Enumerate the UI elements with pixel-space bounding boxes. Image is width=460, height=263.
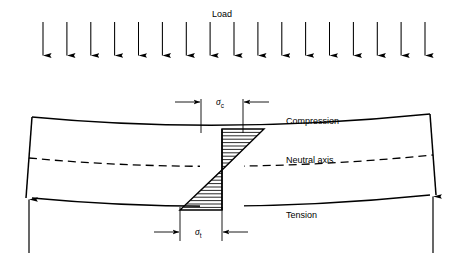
beam-bending-diagram: Load [0, 0, 460, 263]
diagram-canvas: Load [0, 0, 460, 263]
sigma-c-subscript: c [221, 102, 225, 109]
beam-top-edge [32, 114, 430, 125]
sigma-c-dimension: σc [175, 97, 269, 133]
beam-right-end [430, 114, 436, 195]
load-label: Load [212, 9, 232, 19]
neutral-axis-label: Neutral axis [286, 155, 334, 165]
sigma-t-label: σt [195, 227, 202, 239]
compression-label: Compression [286, 116, 339, 126]
sigma-t-dimension: σt [154, 207, 248, 241]
tension-label: Tension [286, 210, 317, 220]
load-arrow-group [43, 22, 425, 56]
sigma-c-label: σc [216, 97, 225, 109]
beam-left-end [26, 117, 32, 198]
sigma-t-subscript: t [200, 232, 202, 239]
